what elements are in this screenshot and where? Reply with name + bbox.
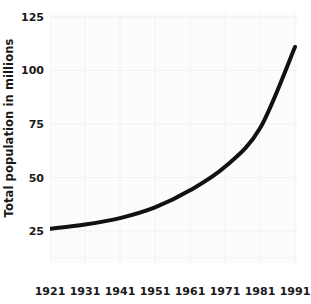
y-tick-label: 50 [14, 173, 44, 184]
x-tick-label: 1991 [275, 285, 311, 298]
y-axis-tick-labels: 125 100 75 50 25 [14, 0, 44, 304]
population-growth-chart: Total population in millions 125 100 75 … [0, 0, 311, 304]
plot-area [50, 12, 297, 264]
x-tick-label: 1931 [65, 285, 105, 298]
y-tick-label: 100 [14, 65, 44, 76]
x-tick-label: 1941 [100, 285, 140, 298]
x-tick-label: 1981 [240, 285, 280, 298]
y-tick-label: 125 [14, 12, 44, 23]
y-tick-label: 25 [14, 226, 44, 237]
x-tick-label: 1971 [205, 285, 245, 298]
x-tick-label: 1921 [30, 285, 70, 298]
x-axis-tick-labels: 1921 1931 1941 1951 1961 1971 1981 1991 [0, 285, 311, 301]
plot-svg [50, 12, 297, 264]
x-tick-label: 1951 [135, 285, 175, 298]
x-tick-label: 1961 [170, 285, 210, 298]
y-tick-label: 75 [14, 119, 44, 130]
